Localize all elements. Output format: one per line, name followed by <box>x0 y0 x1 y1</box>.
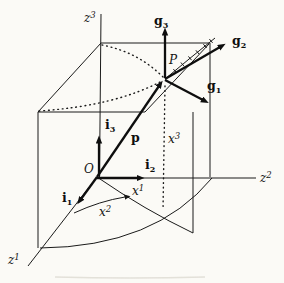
origin-label: O <box>84 162 94 176</box>
z3-axis-label: z3 <box>83 10 96 26</box>
labels: z3 z2 z1 x1 x2 x3 O P i1 i2 i3 p g1 g2 g… <box>7 10 272 268</box>
coordinate-diagram: z3 z2 z1 x1 x2 x3 O P i1 i2 i3 p g1 g2 g… <box>0 0 284 283</box>
g1-vector <box>165 80 203 100</box>
i1-vector-label: i1 <box>62 190 72 207</box>
z2-axis-label: z2 <box>259 170 272 186</box>
base-sweep-curve <box>40 178 212 248</box>
x1-coordinate-curve <box>97 177 193 233</box>
x1-coordinate-label: x1 <box>132 183 144 199</box>
cartesian-axes <box>28 14 256 266</box>
g2-vector-label: g2 <box>232 33 246 50</box>
figure-page: z3 z2 z1 x1 x2 x3 O P i1 i2 i3 p g1 g2 g… <box>0 0 284 283</box>
g3-vector-label: g3 <box>154 13 169 30</box>
p-vector-label: p <box>131 130 140 145</box>
point-P-label: P <box>168 53 178 67</box>
x2-coordinate-label: x2 <box>99 204 111 220</box>
dotted-lines <box>39 45 165 210</box>
x3-coordinate-label: x3 <box>168 131 180 147</box>
scan-smudge <box>55 277 205 278</box>
box-top-left-edge <box>38 43 101 112</box>
i3-vector-label: i3 <box>105 117 116 134</box>
vectors <box>81 34 220 199</box>
x3-dotted-height-line <box>163 86 165 210</box>
i2-vector-label: i2 <box>145 157 155 174</box>
coordinate-curves <box>40 177 212 248</box>
g1-vector-label: g1 <box>207 78 221 95</box>
coordinate-box <box>38 43 210 248</box>
i1-vector <box>81 177 97 199</box>
dotted-curve-top-to-P <box>102 45 163 77</box>
z1-axis-label: z1 <box>7 252 20 268</box>
